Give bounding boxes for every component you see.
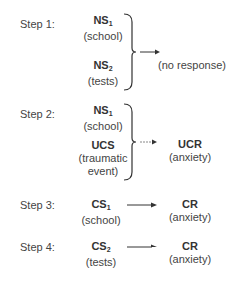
stimulus-code: CS	[91, 198, 106, 210]
stimulus-desc-line2: event)	[88, 165, 119, 177]
stimulus-subscript: 2	[107, 246, 111, 253]
response-desc: (anxiety)	[169, 151, 211, 163]
stimulus-subscript: 1	[109, 110, 113, 117]
stimulus-subscript: 1	[109, 20, 113, 27]
response-code: CR	[182, 240, 198, 252]
stimulus-code: NS	[93, 104, 108, 116]
stimulus-code: NS	[93, 14, 108, 26]
stimulus-desc: (school)	[81, 214, 120, 226]
step-3-response: CR (anxiety)	[160, 198, 220, 224]
stimulus-code: UCS	[91, 139, 114, 151]
step-1-label: Step 1:	[20, 18, 55, 30]
stimulus-code: NS	[93, 59, 108, 71]
response-desc: (anxiety)	[169, 253, 211, 265]
step-1-response: (no response)	[152, 59, 232, 72]
stimulus-subscript: 1	[107, 204, 111, 211]
response-desc: (no response)	[158, 59, 226, 71]
response-code: CR	[182, 198, 198, 210]
step-1-stimulus-2: NS2 (tests)	[78, 59, 128, 88]
step-2-response: UCR (anxiety)	[160, 138, 220, 164]
stimulus-desc: (tests)	[88, 75, 119, 87]
step-4-response: CR (anxiety)	[160, 240, 220, 266]
stimulus-desc: (tests)	[86, 256, 117, 268]
stimulus-desc-line1: (traumatic	[79, 152, 128, 164]
response-desc: (anxiety)	[169, 211, 211, 223]
step-3-label: Step 3:	[20, 199, 55, 211]
step-4-stimulus: CS2 (tests)	[76, 240, 126, 269]
step-2-stimulus-1: NS1 (school)	[78, 104, 128, 133]
step-3-stimulus: CS1 (school)	[76, 198, 126, 227]
stimulus-subscript: 2	[109, 65, 113, 72]
stimulus-code: CS	[91, 240, 106, 252]
stimulus-desc: (school)	[83, 30, 122, 42]
step-4-label: Step 4:	[20, 241, 55, 253]
stimulus-desc: (school)	[83, 120, 122, 132]
step-1-stimulus-1: NS1 (school)	[78, 14, 128, 43]
step-2-label: Step 2:	[20, 108, 55, 120]
step-2-stimulus-2: UCS (traumatic event)	[70, 139, 136, 178]
response-code: UCR	[178, 138, 202, 150]
